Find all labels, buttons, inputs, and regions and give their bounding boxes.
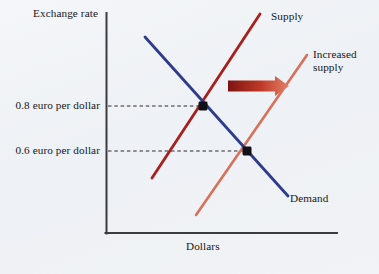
exchange-rate-supply-demand-figure: Exchange rate Dollars Supply Increased s… — [0, 0, 379, 274]
diagram-canvas — [0, 0, 379, 274]
increased-supply-curve — [196, 55, 307, 215]
y-tick-label-low: 0.6 euro per dollar — [0, 144, 100, 157]
supply-curve-label: Supply — [271, 10, 303, 23]
increased-supply-curve-label: Increased supply — [313, 48, 375, 74]
demand-curve — [145, 37, 288, 196]
equilibrium-point-new — [243, 147, 252, 156]
demand-curve-label: Demand — [290, 192, 329, 205]
y-axis-label: Exchange rate — [33, 7, 98, 20]
y-tick-label-high: 0.8 euro per dollar — [0, 99, 100, 112]
x-axis-label: Dollars — [186, 240, 220, 253]
equilibrium-point-original — [199, 102, 208, 111]
